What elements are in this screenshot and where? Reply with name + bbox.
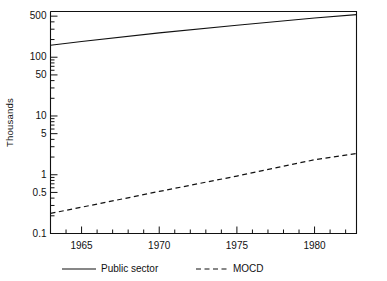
y-tick-label: 50 — [35, 69, 47, 80]
plot-frame — [51, 12, 357, 234]
x-tick-label: 1975 — [226, 240, 249, 251]
plot-canvas: 5001005010510.50.1 1965197019751980 Publ… — [0, 0, 387, 281]
y-tick-label: 0.5 — [33, 187, 47, 198]
legend-label-public-sector: Public sector — [101, 263, 159, 274]
x-tick-label: 1970 — [148, 240, 171, 251]
y-tick-label: 10 — [35, 110, 47, 121]
series-line-public-sector — [51, 15, 357, 46]
x-tick-label: 1980 — [303, 240, 326, 251]
plot-border — [51, 12, 357, 234]
x-tick-label: 1965 — [70, 240, 93, 251]
chart-figure: Thousands 5001005010510.50.1 19651970197… — [0, 0, 387, 281]
x-axis-ticks: 1965197019751980 — [51, 227, 346, 251]
y-tick-label: 100 — [30, 51, 47, 62]
y-tick-label: 5 — [41, 128, 47, 139]
data-series-group — [51, 15, 357, 214]
y-tick-label: 0.1 — [33, 228, 47, 239]
chart-legend: Public sectorMOCD — [62, 263, 264, 274]
series-line-mocd — [51, 153, 357, 213]
legend-label-mocd: MOCD — [233, 263, 264, 274]
y-tick-label: 500 — [30, 10, 47, 21]
y-tick-label: 1 — [41, 169, 47, 180]
